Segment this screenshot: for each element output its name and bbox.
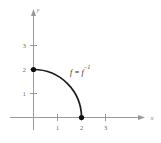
y-tick-label-1: 1: [23, 90, 27, 98]
x-tick-label-1: 1: [56, 124, 60, 132]
x-tick-label-2: 2: [80, 124, 84, 132]
x-axis-label: x: [149, 114, 154, 122]
y-axis-arrowhead: [31, 9, 36, 16]
curve-label-exponent: −1: [84, 64, 91, 70]
x-axis-arrowhead: [138, 115, 145, 120]
graph-canvas: 1 2 3 1 2 3 x y f = f−1: [0, 0, 161, 143]
curve-endpoint-y-intercept: [31, 67, 36, 72]
math-figure: 1 2 3 1 2 3 x y f = f−1: [0, 0, 161, 143]
curve-label: f = f−1: [70, 64, 91, 77]
y-tick-label-3: 3: [23, 42, 27, 50]
curve-endpoint-x-intercept: [79, 115, 84, 120]
y-tick-label-2: 2: [23, 66, 27, 74]
y-axis-label: y: [35, 6, 40, 14]
x-tick-label-3: 3: [104, 124, 108, 132]
